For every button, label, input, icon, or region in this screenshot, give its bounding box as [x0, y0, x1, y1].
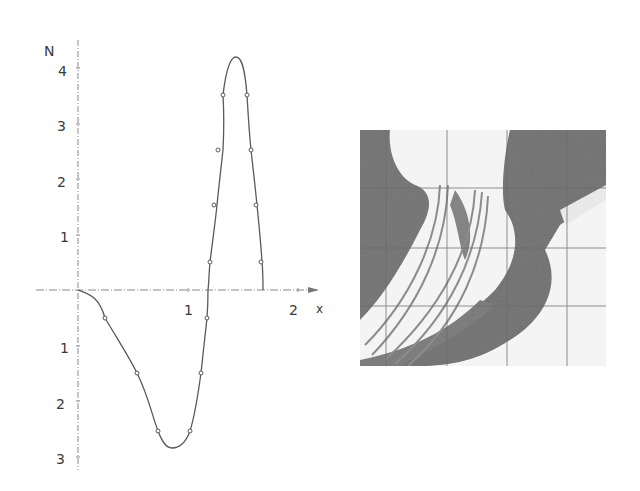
data-markers — [103, 93, 263, 433]
y-tick-label: 2 — [57, 174, 66, 190]
y-tick-label: 3 — [57, 118, 66, 134]
y-tick-label: 1 — [60, 229, 69, 245]
y-tick-label: 3 — [56, 451, 65, 467]
data-curve — [78, 57, 263, 448]
y-tick-label: 4 — [58, 63, 67, 79]
y-tick-label: 1 — [60, 340, 69, 356]
x-axis-label: x — [316, 302, 323, 316]
x-tick-label: 1 — [184, 302, 193, 318]
y-axis-label: N — [44, 43, 54, 59]
photograph — [360, 130, 606, 366]
x-axis-arrow-icon — [308, 287, 319, 293]
axes — [36, 40, 319, 470]
x-tick-label: 2 — [289, 302, 298, 318]
y-tick-label: 2 — [56, 396, 65, 412]
